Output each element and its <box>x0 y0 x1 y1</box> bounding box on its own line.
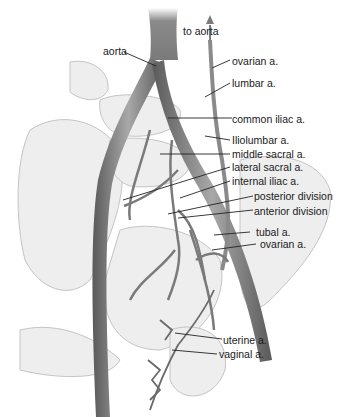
label-lumbar-artery: lumbar a. <box>232 77 276 89</box>
label-posterior-division: posterior division <box>254 190 333 202</box>
label-vaginal-artery: vaginal a. <box>219 348 264 360</box>
aorta-vessel <box>148 8 178 60</box>
label-lateral-sacral-artery: lateral sacral a. <box>232 161 303 173</box>
label-anterior-division: anterior division <box>254 205 328 217</box>
label-iliolumbar-artery: Iliolumbar a. <box>232 134 289 146</box>
label-internal-iliac-artery: internal iliac a. <box>232 175 299 187</box>
label-common-iliac-artery: common iliac a. <box>232 113 305 125</box>
label-uterine-artery: uterine a. <box>223 334 267 346</box>
label-middle-sacral-artery: middle sacral a. <box>232 148 306 160</box>
label-to-aorta: to aorta <box>183 25 219 37</box>
label-ovarian-artery-upper: ovarian a. <box>232 55 278 67</box>
label-tubal-artery: tubal a. <box>256 226 290 238</box>
anatomy-figure: to aorta aorta ovarian a. lumbar a. comm… <box>0 0 350 417</box>
label-aorta: aorta <box>103 45 127 57</box>
label-ovarian-artery-lower: ovarian a. <box>260 238 306 250</box>
